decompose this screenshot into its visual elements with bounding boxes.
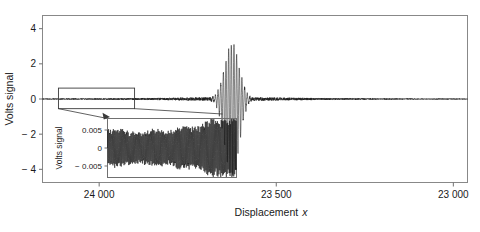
inset-y-tick-label: 0.005 [82, 126, 103, 135]
inset-y-axis-label: Volts signal [54, 126, 64, 169]
inset-y-tick-label: 0 [98, 144, 103, 153]
x-tick-label: 23 500 [261, 189, 292, 200]
y-tick-label: 2 [30, 58, 36, 69]
x-tick-label: 24 000 [84, 189, 115, 200]
x-tick-label: 23 000 [438, 189, 469, 200]
y-tick-label: − 4 [22, 164, 37, 175]
x-axis-label: Displacementx [235, 206, 309, 218]
y-tick-label: 0 [30, 94, 36, 105]
chart-figure: − 4− 2024 24 00023 50023 000 − 0.00500.0… [0, 0, 480, 232]
y-tick-label: − 2 [22, 129, 37, 140]
inset-y-tick-label: − 0.005 [75, 162, 102, 171]
y-axis-label: Volts signal [3, 72, 15, 125]
y-tick-label: 4 [30, 23, 36, 34]
